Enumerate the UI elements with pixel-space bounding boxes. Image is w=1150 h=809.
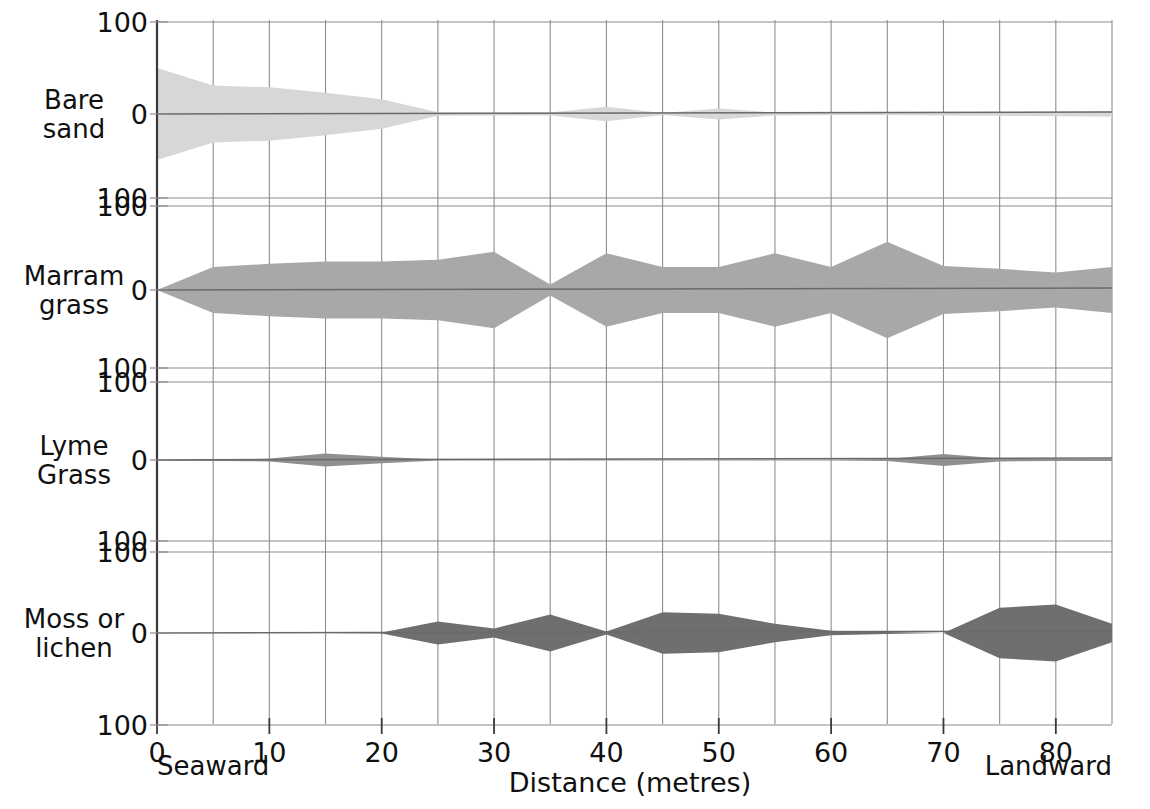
y-tick-100-top-1: 100 — [96, 183, 148, 214]
x-axis-tick-labels: 01020304050607080 — [148, 737, 1073, 768]
y-tick-100-top-3: 100 — [96, 526, 148, 557]
x-axis-ticks — [157, 718, 1056, 734]
landward-label: Landward — [985, 751, 1112, 781]
species-label-marram-grass: grass — [39, 290, 109, 320]
x-tick-label: 70 — [926, 737, 960, 768]
y-tick-0-2: 0 — [131, 445, 148, 476]
species-label-moss-or-lichen: Moss or — [24, 604, 125, 634]
zero-baselines — [157, 112, 1112, 633]
seaward-label: Seaward — [157, 751, 269, 781]
y-tick-100-bottom-3: 100 — [96, 710, 148, 741]
y-tick-0-1: 0 — [131, 275, 148, 306]
y-tick-0-3: 0 — [131, 618, 148, 649]
x-tick-label: 50 — [702, 737, 736, 768]
kite-diagram-chart: 1000100100010010001001000100 01020304050… — [0, 0, 1150, 809]
species-label-moss-or-lichen: lichen — [35, 633, 113, 663]
x-tick-label: 60 — [814, 737, 848, 768]
species-label-bare-sand: Bare — [44, 85, 104, 115]
y-tick-100-top-0: 100 — [96, 7, 148, 38]
x-tick-label: 20 — [365, 737, 399, 768]
kite-diagram-page: 1000100100010010001001000100 01020304050… — [0, 0, 1150, 809]
x-tick-label: 40 — [589, 737, 623, 768]
species-label-lyme-grass: Grass — [37, 460, 111, 490]
kite-bands — [157, 68, 1112, 662]
x-axis-title: Distance (metres) — [509, 767, 751, 798]
y-tick-100-top-2: 100 — [96, 353, 148, 384]
species-label-bare-sand: sand — [43, 114, 105, 144]
y-tick-0-0: 0 — [131, 99, 148, 130]
species-label-marram-grass: Marram — [24, 261, 125, 291]
x-tick-label: 30 — [477, 737, 511, 768]
species-label-lyme-grass: Lyme — [40, 431, 109, 461]
